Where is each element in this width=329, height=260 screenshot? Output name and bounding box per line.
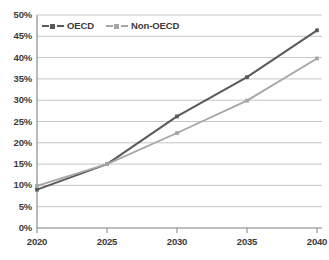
data-point-marker bbox=[245, 99, 249, 103]
plot-area bbox=[0, 0, 329, 260]
series-line-oecd bbox=[37, 30, 317, 189]
data-point-marker bbox=[175, 131, 179, 135]
legend-label-oecd: OECD bbox=[67, 20, 94, 31]
x-tick-label: 2020 bbox=[27, 236, 47, 247]
x-tick-label: 2040 bbox=[307, 236, 327, 247]
series-lines bbox=[37, 30, 317, 189]
gridlines bbox=[37, 15, 322, 228]
series-line-non-oecd bbox=[37, 58, 317, 185]
data-point-marker bbox=[35, 188, 39, 192]
legend-item-oecd: OECD bbox=[42, 20, 94, 31]
data-point-marker bbox=[105, 162, 109, 166]
line-chart: 0%5%10%15%20%25%30%35%40%45%50% OECD Non… bbox=[0, 0, 329, 260]
x-tick-label: 2035 bbox=[237, 236, 257, 247]
data-point-marker bbox=[315, 57, 319, 61]
data-point-marker bbox=[245, 75, 249, 79]
data-point-marker bbox=[315, 28, 319, 32]
x-axis-ticks bbox=[37, 228, 317, 233]
legend-item-non-oecd: Non-OECD bbox=[106, 20, 179, 31]
data-point-marker bbox=[35, 184, 39, 188]
series-markers bbox=[35, 28, 319, 191]
data-point-marker bbox=[175, 114, 179, 118]
legend-swatch-oecd bbox=[42, 21, 64, 30]
x-tick-label: 2030 bbox=[167, 236, 187, 247]
chart-legend: OECD Non-OECD bbox=[42, 20, 179, 31]
legend-swatch-non-oecd bbox=[106, 21, 128, 30]
x-tick-label: 2025 bbox=[97, 236, 117, 247]
legend-label-non-oecd: Non-OECD bbox=[131, 20, 179, 31]
